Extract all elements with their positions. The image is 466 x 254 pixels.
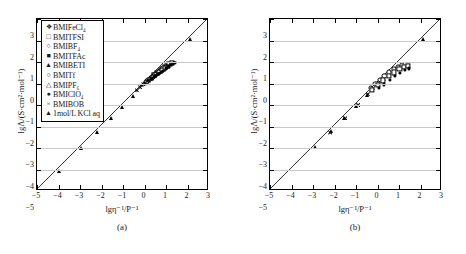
x-axis-tick	[188, 19, 189, 23]
gridline	[37, 127, 207, 128]
y-axis-tick	[203, 127, 207, 128]
legend-item: ▲1mol/L KCl aq	[44, 109, 100, 119]
x-axis-tick	[145, 19, 146, 23]
y-axis-tick-label: −1	[25, 118, 34, 126]
legend-marker-icon: ×	[44, 100, 53, 110]
x-axis-tick-label: 0	[375, 192, 379, 200]
data-point	[329, 129, 333, 133]
y-axis-tick-label: −2	[258, 140, 267, 148]
x-axis-tick	[123, 19, 124, 23]
y-axis-tick	[436, 148, 440, 149]
y-axis-tick-label: −2	[25, 140, 34, 148]
y-axis-tick-label: 2	[263, 54, 267, 62]
y-axis-tick	[203, 41, 207, 42]
y-axis-tick-label: −1	[258, 118, 267, 126]
y-axis-tick-label: 0	[30, 97, 34, 105]
y-axis-tick	[436, 19, 440, 20]
legend-a: ❖BMIFeCl₄□BMITFSI○BMIBF₄■BMITFAc▲BMIBETI…	[41, 20, 104, 122]
y-axis-tick-label: −4	[258, 183, 267, 191]
x-axis-tick-label: −4	[53, 192, 62, 200]
y-axis-tick-label: −3	[25, 161, 34, 169]
legend-label: BMIBOB	[53, 100, 84, 110]
legend-marker-icon: ▲	[44, 109, 53, 119]
x-axis-tick	[166, 185, 167, 189]
y-axis-tick-label: 3	[30, 32, 34, 40]
x-axis-tick-label: −2	[96, 192, 105, 200]
x-axis-tick	[102, 185, 103, 189]
legend-label: BMITFSI	[53, 33, 84, 43]
data-point	[131, 94, 135, 98]
y-axis-tick	[270, 105, 274, 106]
x-axis-tick	[335, 19, 336, 23]
legend-marker-icon: ■	[44, 52, 53, 62]
legend-item: ○BMIBF₄	[44, 42, 100, 52]
x-axis-tick	[292, 185, 293, 189]
data-point	[109, 116, 113, 120]
x-axis-tick	[123, 185, 124, 189]
x-axis-tick	[335, 185, 336, 189]
data-point	[269, 189, 273, 190]
x-axis-tick-labels-b: −5−4−3−2−10123	[269, 192, 441, 204]
legend-marker-icon: ○	[44, 71, 53, 81]
legend-marker-icon: ❖	[44, 23, 53, 33]
x-axis-tick	[292, 19, 293, 23]
y-axis-tick	[203, 148, 207, 149]
x-axis-tick	[313, 185, 314, 189]
legend-label: BMIClO₄	[53, 90, 84, 100]
legend-item: ❖BMIFeCl₄	[44, 23, 100, 33]
y-axis-tick	[436, 41, 440, 42]
x-axis-tick	[421, 19, 422, 23]
gridline	[270, 62, 440, 63]
x-axis-tick	[378, 19, 379, 23]
x-axis-tick	[166, 19, 167, 23]
gridline	[37, 170, 207, 171]
legend-item: ○BMITf	[44, 71, 100, 81]
x-axis-tick	[37, 19, 38, 23]
data-point	[365, 93, 369, 97]
gridline	[270, 148, 440, 149]
x-axis-tick	[270, 185, 271, 189]
x-axis-tick	[421, 185, 422, 189]
legend-item: ●BMIClO₄	[44, 90, 100, 100]
x-axis-title-a: lgη⁻¹/P⁻¹	[36, 204, 208, 214]
x-axis-tick-label: −1	[118, 192, 127, 200]
x-axis-tick	[270, 19, 271, 23]
gridline	[270, 105, 440, 106]
y-axis-tick	[270, 41, 274, 42]
y-axis-tick	[203, 62, 207, 63]
x-axis-tick-label: −2	[329, 192, 338, 200]
legend-marker-icon: ▲	[44, 61, 53, 71]
y-axis-tick	[203, 170, 207, 171]
legend-marker-icon: □	[44, 33, 53, 43]
x-axis-tick	[378, 185, 379, 189]
walden-plot-figure: −5−4−3−2−10123 lgΛ/(S·cm²·mol⁻¹) −5−4−3−…	[0, 0, 466, 254]
x-axis-tick	[399, 19, 400, 23]
legend-label: BMIFeCl₄	[53, 23, 86, 33]
gridline	[270, 41, 440, 42]
x-axis-tick	[399, 185, 400, 189]
y-axis-title-a: lgΛ/(S·cm²·mol⁻¹)	[16, 46, 26, 156]
x-axis-title-b: lgη⁻¹/P⁻¹	[269, 204, 441, 214]
y-axis-tick-label: −3	[258, 161, 267, 169]
data-point	[342, 116, 346, 120]
x-axis-tick	[356, 19, 357, 23]
y-axis-tick	[436, 170, 440, 171]
y-axis-tick-label: 1	[30, 75, 34, 83]
x-axis-tick-label: −3	[75, 192, 84, 200]
x-axis-tick-label: 1	[163, 192, 167, 200]
y-axis-tick	[270, 170, 274, 171]
panel-a: −5−4−3−2−10123 lgΛ/(S·cm²·mol⁻¹) −5−4−3−…	[0, 0, 233, 254]
y-axis-tick	[37, 170, 41, 171]
y-axis-tick	[37, 127, 41, 128]
x-axis-tick-label: −3	[308, 192, 317, 200]
y-axis-tick	[436, 62, 440, 63]
legend-label: BMIBETI	[53, 61, 85, 71]
y-axis-tick-label: −5	[25, 204, 34, 212]
x-axis-tick-label: −1	[351, 192, 360, 200]
legend-marker-icon: ●	[44, 90, 53, 100]
plot-area-b	[269, 18, 441, 190]
y-axis-tick	[436, 105, 440, 106]
x-axis-tick-label: 0	[142, 192, 146, 200]
y-axis-tick-label: −5	[258, 204, 267, 212]
x-axis-tick	[356, 185, 357, 189]
